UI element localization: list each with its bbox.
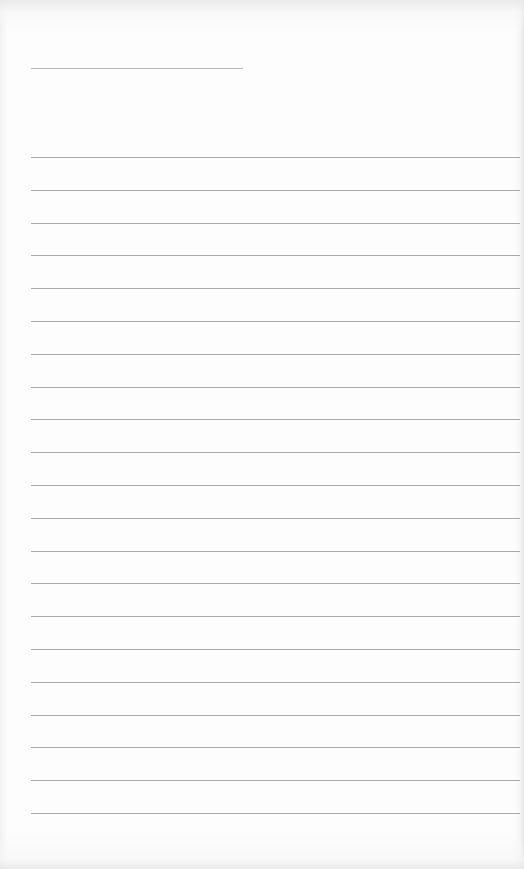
lined-paper-page: [0, 0, 524, 869]
ruled-line: [31, 715, 520, 716]
title-underline: [31, 68, 243, 69]
ruled-line: [31, 452, 520, 453]
ruled-line: [31, 583, 520, 584]
ruled-line: [31, 321, 520, 322]
ruled-line: [31, 649, 520, 650]
ruled-line: [31, 616, 520, 617]
ruled-line: [31, 354, 520, 355]
ruled-line: [31, 551, 520, 552]
ruled-line: [31, 813, 520, 814]
ruled-line: [31, 485, 520, 486]
ruled-line: [31, 518, 520, 519]
ruled-line: [31, 682, 520, 683]
ruled-line: [31, 288, 520, 289]
ruled-line: [31, 190, 520, 191]
ruled-line: [31, 157, 520, 158]
ruled-line: [31, 387, 520, 388]
ruled-line: [31, 255, 520, 256]
ruled-line: [31, 747, 520, 748]
ruled-line: [31, 780, 520, 781]
ruled-line: [31, 419, 520, 420]
ruled-line: [31, 223, 520, 224]
